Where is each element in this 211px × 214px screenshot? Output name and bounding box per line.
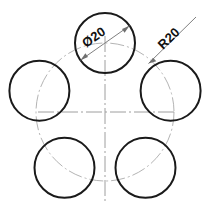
hole-lower-left bbox=[35, 138, 95, 198]
radius-dimension-label: R20 bbox=[155, 24, 183, 52]
hole-lower-right bbox=[116, 138, 176, 198]
radius-arrow-icon bbox=[149, 58, 157, 64]
technical-drawing-canvas: Ø20 R20 bbox=[0, 0, 211, 214]
cad-drawing: Ø20 R20 bbox=[0, 0, 211, 214]
diameter-arrow-end-icon bbox=[122, 26, 130, 33]
diameter-dimension-label: Ø20 bbox=[79, 24, 108, 51]
diameter-arrow-start-icon bbox=[81, 53, 89, 60]
